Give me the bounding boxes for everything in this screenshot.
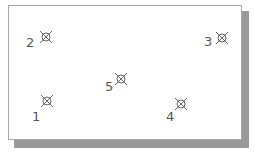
circle-x-icon	[174, 97, 188, 111]
point-marker-4[interactable]	[174, 97, 188, 111]
circle-x-icon	[39, 30, 53, 44]
point-marker-2[interactable]	[39, 30, 53, 44]
point-label-1: 1	[32, 110, 40, 123]
point-label-2: 2	[26, 36, 34, 49]
circle-x-icon	[40, 94, 54, 108]
point-label-3: 3	[204, 35, 212, 48]
point-marker-5[interactable]	[114, 72, 128, 86]
point-marker-3[interactable]	[215, 31, 229, 45]
circle-x-icon	[114, 72, 128, 86]
point-marker-1[interactable]	[40, 94, 54, 108]
point-label-5: 5	[105, 80, 113, 93]
point-label-4: 4	[166, 110, 174, 123]
circle-x-icon	[215, 31, 229, 45]
